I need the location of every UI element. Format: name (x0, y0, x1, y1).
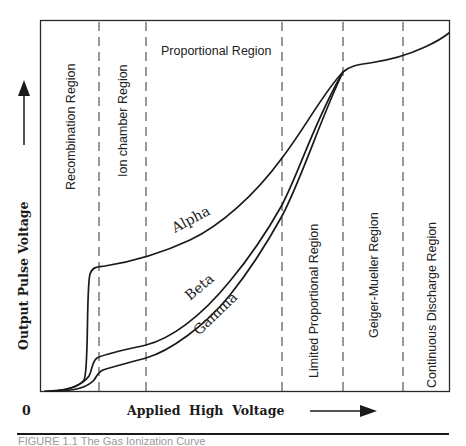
beta-curve (50, 72, 343, 391)
region-dividers (99, 22, 403, 391)
region-label-ion-chamber: Ion chamber Region (116, 64, 130, 177)
alpha-curve (45, 72, 343, 391)
combined-curve (343, 33, 449, 72)
figure-caption: FIGURE 1.1 The Gas Ionization Curve (18, 436, 448, 446)
region-label-limited-proportional: Limited Proportional Region (307, 224, 321, 378)
y-axis-label: Output Pulse Voltage (16, 201, 31, 350)
x-axis-label: Applied High Voltage (126, 403, 284, 418)
gamma-curve (55, 72, 343, 391)
region-label-recombination: Recombination Region (64, 63, 78, 190)
region-label-proportional: Proportional Region (161, 44, 272, 58)
x-axis-arrow-icon (310, 405, 377, 417)
y-axis-arrow-icon (18, 80, 30, 145)
region-label-continuous-discharge: Continuous Discharge Region (425, 222, 439, 388)
region-label-geiger-mueller: Geiger-Mueller Region (367, 212, 381, 338)
curve-label-beta: Beta (182, 270, 217, 303)
plot-frame (41, 21, 450, 392)
origin-label: 0 (22, 403, 31, 418)
